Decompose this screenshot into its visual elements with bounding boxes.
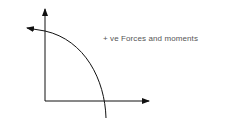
curved-moment-arrow bbox=[27, 28, 106, 118]
sign-convention-label: + ve Forces and moments bbox=[103, 34, 198, 43]
sign-convention-diagram bbox=[0, 0, 229, 124]
diagram-canvas: + ve Forces and moments bbox=[0, 0, 229, 124]
